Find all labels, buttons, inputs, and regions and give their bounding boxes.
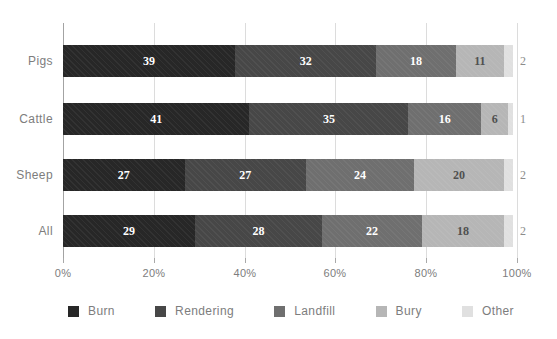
bar-segment-landfill: 24 bbox=[306, 159, 414, 191]
segment-value-label: 39 bbox=[143, 54, 155, 69]
x-tick-label: 0% bbox=[55, 267, 72, 279]
stacked-bar: 29282218 bbox=[63, 215, 513, 247]
category-label: Sheep bbox=[0, 159, 63, 191]
legend-swatch-icon bbox=[462, 306, 473, 317]
bar-segment-bury: 18 bbox=[422, 215, 504, 247]
segment-value-label: 20 bbox=[453, 168, 465, 183]
x-axis-tick bbox=[63, 258, 64, 263]
stacked-bar: 27272420 bbox=[63, 159, 513, 191]
bar-row-pigs: Pigs393218112 bbox=[0, 45, 557, 77]
x-axis-tick bbox=[154, 258, 155, 263]
legend: BurnRenderingLandfillBuryOther bbox=[68, 302, 514, 320]
x-axis-tick bbox=[517, 258, 518, 263]
stacked-bar-chart: 0%20%40%60%80%100% BurnRenderingLandfill… bbox=[0, 0, 557, 339]
bar-segment-rendering: 28 bbox=[195, 215, 322, 247]
x-axis-tick bbox=[335, 258, 336, 263]
bar-segment-other bbox=[504, 159, 513, 191]
category-label: All bbox=[0, 215, 63, 247]
segment-value-label: 22 bbox=[366, 224, 378, 239]
legend-label: Other bbox=[482, 304, 514, 318]
segment-value-label: 18 bbox=[457, 224, 469, 239]
bar-segment-landfill: 16 bbox=[408, 103, 481, 135]
bar-segment-burn: 41 bbox=[63, 103, 249, 135]
segment-value-label: 16 bbox=[439, 112, 451, 127]
legend-swatch-icon bbox=[68, 306, 79, 317]
bar-row-all: All292822182 bbox=[0, 215, 557, 247]
legend-item-burn: Burn bbox=[68, 304, 115, 318]
x-tick-label: 40% bbox=[234, 267, 257, 279]
outside-value-label: 2 bbox=[520, 215, 526, 247]
segment-value-label: 6 bbox=[492, 112, 498, 127]
legend-item-bury: Bury bbox=[376, 304, 422, 318]
legend-item-landfill: Landfill bbox=[274, 304, 335, 318]
segment-value-label: 18 bbox=[410, 54, 422, 69]
legend-label: Landfill bbox=[294, 304, 335, 318]
x-tick-label: 80% bbox=[415, 267, 438, 279]
segment-value-label: 41 bbox=[150, 112, 162, 127]
segment-value-label: 27 bbox=[118, 168, 130, 183]
bar-segment-other bbox=[504, 45, 513, 77]
bar-row-sheep: Sheep272724202 bbox=[0, 159, 557, 191]
bar-segment-burn: 29 bbox=[63, 215, 195, 247]
bar-segment-landfill: 18 bbox=[376, 45, 455, 77]
legend-item-rendering: Rendering bbox=[155, 304, 234, 318]
outside-value-label: 2 bbox=[520, 159, 526, 191]
segment-value-label: 28 bbox=[252, 224, 264, 239]
segment-value-label: 27 bbox=[239, 168, 251, 183]
bar-segment-rendering: 35 bbox=[249, 103, 408, 135]
x-tick-label: 60% bbox=[324, 267, 347, 279]
outside-value-label: 1 bbox=[520, 103, 526, 135]
stacked-bar: 4135166 bbox=[63, 103, 513, 135]
bar-segment-bury: 20 bbox=[414, 159, 504, 191]
legend-label: Rendering bbox=[175, 304, 234, 318]
legend-swatch-icon bbox=[274, 306, 285, 317]
segment-value-label: 11 bbox=[474, 54, 485, 69]
bar-row-cattle: Cattle41351661 bbox=[0, 103, 557, 135]
segment-value-label: 29 bbox=[123, 224, 135, 239]
legend-label: Bury bbox=[396, 304, 422, 318]
bar-segment-burn: 27 bbox=[63, 159, 185, 191]
bar-segment-rendering: 32 bbox=[235, 45, 376, 77]
legend-label: Burn bbox=[88, 304, 115, 318]
legend-swatch-icon bbox=[155, 306, 166, 317]
stacked-bar: 39321811 bbox=[63, 45, 513, 77]
bar-segment-burn: 39 bbox=[63, 45, 235, 77]
category-label: Cattle bbox=[0, 103, 63, 135]
bar-segment-bury: 11 bbox=[456, 45, 505, 77]
bar-segment-bury: 6 bbox=[481, 103, 508, 135]
bar-segment-other bbox=[504, 215, 513, 247]
x-tick-label: 100% bbox=[502, 267, 531, 279]
legend-item-other: Other bbox=[462, 304, 514, 318]
x-tick-label: 20% bbox=[143, 267, 166, 279]
bar-segment-landfill: 22 bbox=[322, 215, 422, 247]
x-axis-tick bbox=[426, 258, 427, 263]
outside-value-label: 2 bbox=[520, 45, 526, 77]
segment-value-label: 35 bbox=[323, 112, 335, 127]
legend-swatch-icon bbox=[376, 306, 387, 317]
category-label: Pigs bbox=[0, 45, 63, 77]
bar-segment-other bbox=[508, 103, 513, 135]
segment-value-label: 24 bbox=[354, 168, 366, 183]
bar-segment-rendering: 27 bbox=[185, 159, 307, 191]
x-axis-tick bbox=[245, 258, 246, 263]
segment-value-label: 32 bbox=[300, 54, 312, 69]
